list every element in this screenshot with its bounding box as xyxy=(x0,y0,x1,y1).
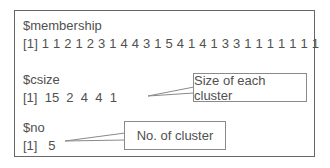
membership-label: $membership xyxy=(23,18,102,33)
no-values: [1] 5 xyxy=(23,138,56,153)
csize-label: $csize xyxy=(23,72,60,87)
callout-size-of-each-cluster: Size of each cluster xyxy=(193,73,307,102)
no-label: $no xyxy=(23,120,45,135)
membership-values: [1] 1 1 2 1 2 3 1 4 4 3 1 5 4 1 4 1 3 3 … xyxy=(23,36,319,51)
callout-no-of-cluster: No. of cluster xyxy=(124,121,226,150)
csize-values: [1] 15 2 4 4 1 xyxy=(23,90,117,105)
